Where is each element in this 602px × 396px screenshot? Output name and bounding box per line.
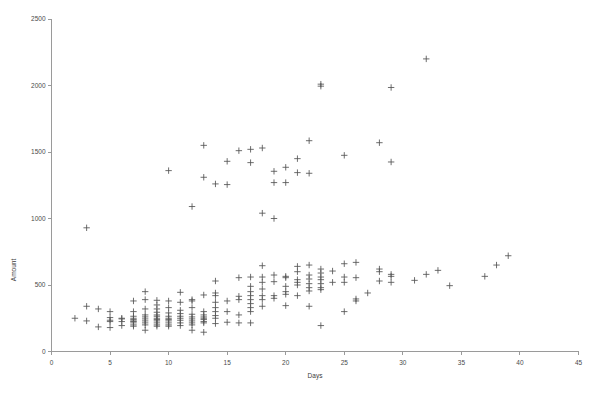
data-point-marker	[259, 210, 265, 216]
data-point-marker	[247, 146, 253, 152]
data-point-marker	[388, 159, 394, 165]
y-axis-tick-labels: 05001000150020002500	[31, 15, 46, 355]
x-tick-label: 0	[50, 359, 54, 366]
data-point-marker	[329, 268, 335, 274]
y-tick-label: 500	[35, 281, 46, 288]
y-tick-label: 2000	[31, 82, 46, 89]
data-point-marker	[247, 159, 253, 165]
data-point-marker	[294, 292, 300, 298]
data-point-marker	[283, 179, 289, 185]
data-point-marker	[83, 225, 89, 231]
data-point-marker	[259, 279, 265, 285]
data-point-marker	[142, 306, 148, 312]
data-point-marker	[259, 286, 265, 292]
data-point-marker	[411, 277, 417, 283]
data-point-marker	[376, 278, 382, 284]
data-point-marker	[493, 262, 499, 268]
x-tick-label: 40	[516, 359, 524, 366]
data-point-marker	[189, 304, 195, 310]
data-point-markers	[72, 56, 512, 336]
data-point-marker	[271, 179, 277, 185]
tick-marks-group	[48, 19, 579, 355]
data-point-marker	[482, 273, 488, 279]
data-point-marker	[423, 56, 429, 62]
data-point-marker	[236, 147, 242, 153]
data-point-marker	[271, 215, 277, 221]
data-point-marker	[95, 306, 101, 312]
data-point-marker	[283, 274, 289, 280]
data-point-marker	[247, 274, 253, 280]
y-tick-label: 2500	[31, 15, 46, 22]
x-tick-label: 5	[108, 359, 112, 366]
data-point-marker	[189, 298, 195, 304]
data-point-marker	[388, 84, 394, 90]
x-tick-label: 15	[224, 359, 232, 366]
y-axis-title: Amount	[10, 259, 17, 282]
data-point-marker	[306, 262, 312, 268]
data-point-marker	[259, 263, 265, 269]
data-point-marker	[271, 272, 277, 278]
data-point-marker	[107, 324, 113, 330]
data-point-marker	[306, 303, 312, 309]
x-tick-label: 20	[282, 359, 290, 366]
data-point-marker	[365, 290, 371, 296]
data-point-marker	[95, 324, 101, 330]
data-point-marker	[154, 323, 160, 329]
x-tick-label: 25	[341, 359, 349, 366]
data-point-marker	[388, 279, 394, 285]
data-point-marker	[271, 278, 277, 284]
data-point-marker	[224, 308, 230, 314]
data-point-marker	[142, 288, 148, 294]
data-point-marker	[212, 278, 218, 284]
data-point-marker	[236, 274, 242, 280]
data-point-marker	[224, 181, 230, 187]
data-point-marker	[189, 203, 195, 209]
data-point-marker	[236, 296, 242, 302]
data-point-marker	[306, 288, 312, 294]
data-point-marker	[201, 292, 207, 298]
data-point-marker	[72, 315, 78, 321]
data-point-marker	[177, 299, 183, 305]
data-point-marker	[236, 320, 242, 326]
data-point-marker	[306, 137, 312, 143]
data-point-marker	[189, 327, 195, 333]
data-point-marker	[446, 282, 452, 288]
data-point-marker	[376, 139, 382, 145]
data-point-marker	[201, 320, 207, 326]
x-axis-tick-labels: 051015202530354045	[50, 359, 583, 366]
data-point-marker	[224, 298, 230, 304]
data-point-marker	[119, 322, 125, 328]
data-point-marker	[341, 279, 347, 285]
data-point-marker	[177, 289, 183, 295]
data-point-marker	[353, 274, 359, 280]
data-point-marker	[201, 329, 207, 335]
scatter-chart-figure: 05001000150020002500 051015202530354045 …	[0, 0, 602, 396]
data-point-marker	[294, 169, 300, 175]
data-point-marker	[341, 152, 347, 158]
data-point-marker	[107, 308, 113, 314]
data-point-marker	[353, 259, 359, 265]
data-point-marker	[130, 323, 136, 329]
data-point-marker	[212, 320, 218, 326]
data-point-marker	[165, 298, 171, 304]
data-point-marker	[505, 253, 511, 259]
data-point-marker	[107, 318, 113, 324]
data-point-marker	[423, 271, 429, 277]
data-point-marker	[259, 303, 265, 309]
data-point-marker	[247, 320, 253, 326]
data-point-marker	[318, 322, 324, 328]
data-point-marker	[283, 164, 289, 170]
data-point-marker	[306, 170, 312, 176]
data-point-marker	[294, 269, 300, 275]
data-point-marker	[224, 158, 230, 164]
y-tick-label: 1000	[31, 215, 46, 222]
data-point-marker	[283, 302, 289, 308]
data-point-marker	[341, 261, 347, 267]
data-point-marker	[271, 168, 277, 174]
plot-area: 05001000150020002500 051015202530354045 …	[0, 0, 602, 396]
data-point-marker	[83, 318, 89, 324]
data-point-marker	[142, 296, 148, 302]
x-tick-label: 10	[165, 359, 173, 366]
data-point-marker	[435, 267, 441, 273]
y-tick-label: 0	[42, 348, 46, 355]
